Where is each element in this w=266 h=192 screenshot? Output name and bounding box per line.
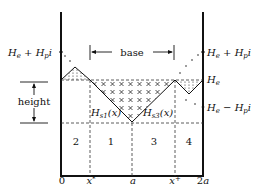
tick-x-star: x* xyxy=(86,175,96,186)
tick-a: a xyxy=(130,175,136,186)
region-4-label: 4 xyxy=(186,136,192,147)
left-dotted-mound xyxy=(62,67,89,80)
region-3-label: 3 xyxy=(151,136,157,147)
left-top-level-label: He + Hpi xyxy=(7,47,52,60)
right-bottom-marker xyxy=(202,106,205,109)
tick-x-plus: x+ xyxy=(169,175,181,186)
right-dotted-dip xyxy=(176,80,202,93)
tick-0: 0 xyxy=(59,175,65,186)
curve-label-hs1: Hs1(x) xyxy=(90,107,121,120)
right-middle-level-label: He xyxy=(206,74,220,87)
right-top-level-label: He + Hpi xyxy=(206,47,251,60)
right-bottom-level-label: He − Hpi xyxy=(206,102,251,115)
height-label: height xyxy=(18,96,50,107)
tick-2a: 2a xyxy=(197,175,209,186)
base-label: base xyxy=(120,47,143,58)
region-1-label: 1 xyxy=(108,136,114,147)
curve-label-hs3: Hs3(x) xyxy=(142,107,173,120)
region-2-label: 2 xyxy=(73,136,79,147)
diagram-canvas: base height He + Hpi He + Hpi He He − Hp… xyxy=(0,0,266,192)
